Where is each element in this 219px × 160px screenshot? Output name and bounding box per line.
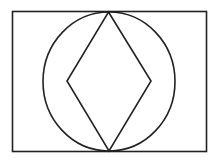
- inscribed-circle: [43, 12, 175, 151]
- inner-rhombus: [67, 12, 151, 151]
- geometry-diagram: [0, 0, 219, 160]
- diagram-canvas: [0, 0, 219, 160]
- outer-rectangle: [13, 12, 207, 152]
